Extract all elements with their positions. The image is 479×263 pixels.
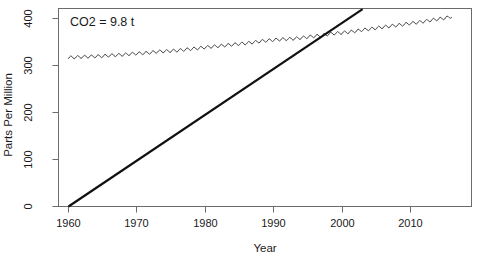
co2-annotation-label: CO2 = 9.8 t [70,15,135,29]
x-tick-label-1970: 1970 [124,217,148,229]
y-tick-label-400: 400 [22,9,34,27]
y-tick-label-200: 200 [22,103,34,121]
chart-canvas: 400 300 200 100 0 Parts Per Million 1960… [0,0,479,263]
x-tick-label-2000: 2000 [330,217,354,229]
x-axis-title: Year [253,242,276,254]
y-tick-label-100: 100 [22,150,34,168]
x-tick-label-1980: 1980 [193,217,217,229]
x-tick-label-1960: 1960 [56,217,80,229]
x-tick-label-1990: 1990 [261,217,285,229]
y-tick-label-300: 300 [22,56,34,74]
y-tick-label-0: 0 [22,203,34,209]
y-axis-title: Parts Per Million [2,73,14,157]
chart-figure: 400 300 200 100 0 Parts Per Million 1960… [0,0,479,263]
x-tick-label-2010: 2010 [398,217,422,229]
